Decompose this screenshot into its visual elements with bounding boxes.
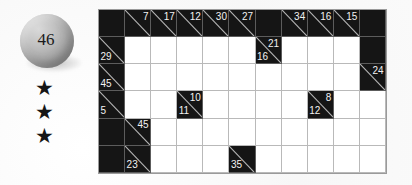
clue-across-value: 12 — [309, 106, 320, 116]
grid-cell-open[interactable] — [334, 64, 360, 91]
clue-down-value: 17 — [164, 12, 175, 22]
grid-cell-block — [256, 10, 282, 37]
clue-down-value: 16 — [320, 12, 331, 22]
puzzle-number-label: 46 — [38, 30, 55, 50]
grid-cell-open[interactable] — [229, 91, 255, 118]
grid-cell-clue: 45 — [125, 119, 151, 146]
grid-cell-open[interactable] — [203, 91, 229, 118]
grid-cell-open[interactable] — [334, 37, 360, 64]
grid-cell-block — [99, 10, 125, 37]
grid-cell-open[interactable] — [203, 37, 229, 64]
grid-cell-clue: 24 — [360, 64, 386, 91]
clue-down-value: 8 — [326, 93, 332, 103]
grid-cell-clue: 30 — [203, 10, 229, 37]
grid-cell-open[interactable] — [177, 146, 203, 173]
puzzle-number-badge: 46 — [20, 14, 76, 70]
grid-cell-open[interactable] — [256, 91, 282, 118]
grid-cell-clue: 35 — [229, 146, 255, 173]
clue-across-value: 11 — [179, 106, 189, 116]
grid-cell-open[interactable] — [360, 119, 386, 146]
grid-cell-open[interactable] — [203, 64, 229, 91]
grid-cell-open[interactable] — [256, 64, 282, 91]
badge-sphere: 46 — [20, 14, 74, 68]
grid-cell-clue: 17 — [151, 10, 177, 37]
grid-cell-open[interactable] — [229, 37, 255, 64]
grid-cell-open[interactable] — [256, 119, 282, 146]
clue-down-value: 7 — [143, 12, 149, 22]
clue-across-value: 5 — [101, 106, 107, 116]
grid-cell-open[interactable] — [334, 146, 360, 173]
grid-cell-open[interactable] — [203, 146, 229, 173]
grid-cell-open[interactable] — [151, 91, 177, 118]
grid-cell-open[interactable] — [360, 146, 386, 173]
grid-cell-open[interactable] — [151, 37, 177, 64]
grid-cell-clue: 5 — [99, 91, 125, 118]
clue-down-value: 10 — [190, 93, 201, 103]
grid-cell-open[interactable] — [360, 91, 386, 118]
grid-cell-open[interactable] — [177, 37, 203, 64]
grid-cell-open[interactable] — [151, 146, 177, 173]
difficulty-star: ★ — [34, 78, 54, 98]
puzzle-info-panel: 46 ★★★ — [0, 0, 96, 185]
grid-cell-open[interactable] — [125, 91, 151, 118]
grid-cell-open[interactable] — [308, 64, 334, 91]
grid-cell-block — [99, 119, 125, 146]
grid-cell-clue: 23 — [125, 146, 151, 173]
grid-cell-open[interactable] — [282, 91, 308, 118]
clue-across-value: 29 — [101, 52, 112, 62]
difficulty-star: ★ — [34, 126, 54, 146]
grid-cell-block — [99, 146, 125, 173]
grid-cell-open[interactable] — [308, 37, 334, 64]
grid-cell-clue: 27 — [229, 10, 255, 37]
grid-cell-open[interactable] — [282, 146, 308, 173]
clue-down-value: 34 — [294, 12, 305, 22]
clue-across-value: 35 — [231, 160, 242, 170]
grid-cell-open[interactable] — [177, 64, 203, 91]
grid-cell-clue: 34 — [282, 10, 308, 37]
clue-down-value: 27 — [242, 12, 253, 22]
grid-cell-open[interactable] — [125, 64, 151, 91]
grid-cell-open[interactable] — [256, 146, 282, 173]
grid-cell-open[interactable] — [334, 119, 360, 146]
grid-cell-block — [360, 37, 386, 64]
grid-cell-open[interactable] — [282, 37, 308, 64]
grid-cell-open[interactable] — [151, 64, 177, 91]
clue-across-value: 23 — [127, 160, 138, 170]
clue-across-value: 16 — [257, 52, 268, 62]
grid-cell-open[interactable] — [177, 119, 203, 146]
clue-down-value: 24 — [372, 66, 383, 76]
grid-cell-open[interactable] — [151, 119, 177, 146]
grid-cell-clue: 1011 — [177, 91, 203, 118]
grid-cell-open[interactable] — [282, 119, 308, 146]
clue-down-value: 15 — [346, 12, 357, 22]
grid-cell-block — [360, 10, 386, 37]
clue-down-value: 45 — [138, 120, 149, 130]
kakuro-grid: 717123027341615292116452451011812452335 — [99, 10, 386, 173]
grid-cell-open[interactable] — [308, 119, 334, 146]
grid-cell-clue: 7 — [125, 10, 151, 37]
grid-cell-clue: 15 — [334, 10, 360, 37]
grid-cell-open[interactable] — [334, 91, 360, 118]
grid-cell-open[interactable] — [203, 119, 229, 146]
grid-cell-clue: 16 — [308, 10, 334, 37]
grid-cell-clue: 2116 — [256, 37, 282, 64]
clue-down-value: 21 — [268, 39, 279, 49]
grid-cell-open[interactable] — [308, 146, 334, 173]
grid-cell-clue: 45 — [99, 64, 125, 91]
grid-cell-open[interactable] — [229, 119, 255, 146]
kakuro-grid-container: 717123027341615292116452451011812452335 — [99, 10, 386, 173]
clue-down-value: 30 — [216, 12, 227, 22]
difficulty-rating: ★★★ — [22, 78, 66, 150]
grid-cell-open[interactable] — [125, 37, 151, 64]
grid-cell-clue: 12 — [177, 10, 203, 37]
grid-cell-clue: 812 — [308, 91, 334, 118]
grid-cell-open[interactable] — [229, 64, 255, 91]
grid-cell-open[interactable] — [282, 64, 308, 91]
clue-across-value: 45 — [101, 79, 112, 89]
difficulty-star: ★ — [34, 102, 54, 122]
grid-cell-clue: 29 — [99, 37, 125, 64]
puzzle-page: 46 ★★★ 717123027341615292116452451011812… — [0, 0, 412, 185]
clue-down-value: 12 — [190, 12, 201, 22]
